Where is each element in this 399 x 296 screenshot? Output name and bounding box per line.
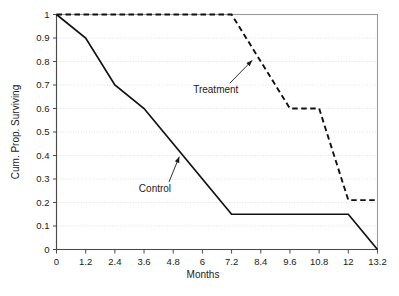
y-tick-label-4: 0.6 [36,103,49,114]
y-tick-label-6: 0.4 [36,150,49,161]
chart-canvas: 10.90.80.70.60.50.40.30.20.10 01.22.43.6… [0,0,399,296]
x-tick-label-3: 3.6 [137,256,150,267]
x-axis-tick-labels: 01.22.43.64.867.28.49.610.81213.2 [54,256,387,267]
x-tick-label-4: 4.8 [167,256,180,267]
y-tick-label-1: 0.9 [36,32,49,43]
y-tick-label-0: 1 [44,9,49,20]
x-tick-label-6: 7.2 [225,256,238,267]
x-tick-label-9: 10.8 [310,256,329,267]
survival-curve-figure: 10.90.80.70.60.50.40.30.20.10 01.22.43.6… [0,0,399,296]
y-tick-label-8: 0.2 [36,197,49,208]
x-tick-label-8: 9.6 [283,256,296,267]
y-axis-tick-labels: 10.90.80.70.60.50.40.30.20.10 [36,9,49,255]
x-tick-label-11: 13.2 [368,256,387,267]
x-tick-label-5: 6 [200,256,205,267]
series-annotation-label-control: Control [139,183,171,194]
x-tick-label-10: 12 [343,256,354,267]
y-tick-label-9: 0.1 [36,220,49,231]
x-axis-tick-marks [57,250,378,254]
x-tick-label-0: 0 [54,256,59,267]
y-tick-label-10: 0 [44,244,49,255]
y-tick-label-7: 0.3 [36,173,49,184]
series-annotations: ControlTreatment [139,60,252,194]
x-axis-title: Months [187,269,220,280]
y-tick-label-2: 0.8 [36,56,49,67]
x-tick-label-2: 2.4 [108,256,121,267]
y-tick-label-3: 0.7 [36,79,49,90]
series-annotation-arrowhead-control [175,157,179,163]
y-axis-title: Cum. Prop. Surviving [10,85,21,179]
series-line-treatment [57,15,378,201]
x-tick-label-7: 8.4 [254,256,267,267]
x-tick-label-1: 1.2 [79,256,92,267]
y-tick-label-5: 0.5 [36,126,49,137]
series-annotation-label-treatment: Treatment [193,84,238,95]
